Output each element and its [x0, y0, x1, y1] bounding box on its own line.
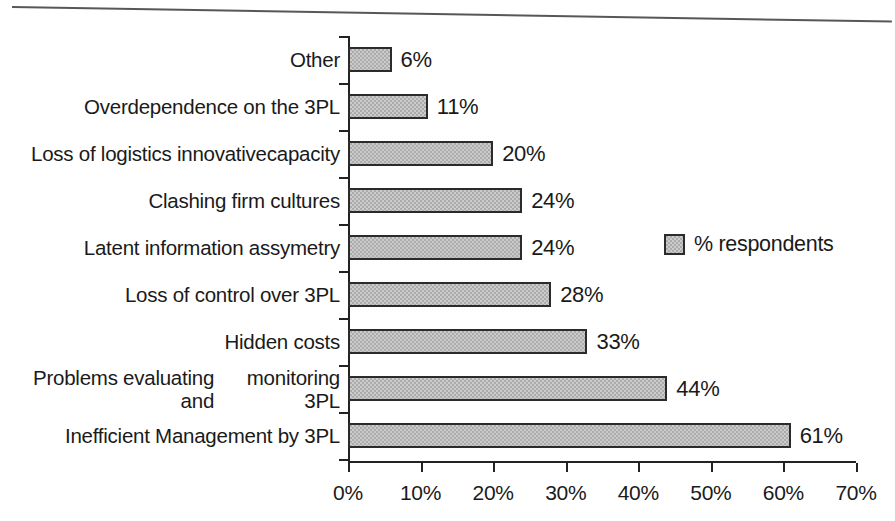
category-label-line: Loss of control over 3PL [125, 283, 340, 306]
category-label: Latent information assymetry [8, 224, 340, 271]
y-axis-tick [339, 271, 348, 273]
y-axis-tick [339, 83, 348, 85]
legend-label: % respondents [694, 232, 834, 257]
category-label-line: Other [290, 48, 340, 71]
bar [348, 94, 428, 119]
category-label-line: Problems evaluating and [8, 366, 214, 412]
category-label-line: Latent information assymetry [84, 236, 340, 259]
y-axis-tick [339, 177, 348, 179]
bar [348, 47, 392, 72]
chart-legend: % respondents [664, 232, 834, 257]
y-axis-tick [339, 365, 348, 367]
x-axis-tick [566, 463, 568, 472]
x-axis-tick-label: 60% [763, 481, 804, 505]
bar [348, 376, 667, 401]
bar-value-label: 61% [800, 423, 843, 448]
x-axis-tick-label: 0% [333, 481, 363, 505]
x-axis-tick-label: 10% [400, 481, 441, 505]
bar-row: 20% [348, 130, 856, 177]
x-axis-tick-label: 30% [545, 481, 586, 505]
y-axis-tick [339, 224, 348, 226]
x-axis-tick [421, 463, 423, 472]
x-axis-line [348, 461, 856, 463]
x-axis-tick [348, 463, 350, 472]
legend-swatch-icon [664, 234, 685, 255]
y-axis-tick [339, 412, 348, 414]
horizontal-bar-chart: OtherOverdependence on the 3PLLoss of lo… [0, 0, 895, 521]
bar [348, 235, 522, 260]
category-label-line: monitoring 3PL [214, 366, 340, 412]
y-axis-tick [339, 36, 348, 38]
x-axis-tick-label: 20% [473, 481, 514, 505]
category-label-line: Inefficient Management by 3PL [65, 424, 340, 447]
category-label-line: Overdependence on the 3PL [84, 95, 340, 118]
bar-row: 11% [348, 83, 856, 130]
x-axis-tick [711, 463, 713, 472]
bar [348, 329, 587, 354]
bar-value-label: 20% [502, 141, 545, 166]
bar-row: 6% [348, 36, 856, 83]
bar-value-label: 44% [676, 376, 719, 401]
category-label: Hidden costs [8, 318, 340, 365]
category-label: Loss of logistics innovativecapacity [8, 130, 340, 177]
y-axis-tick [339, 318, 348, 320]
category-label: Inefficient Management by 3PL [8, 412, 340, 459]
x-axis-tick [856, 463, 858, 472]
x-axis-tick-label: 40% [618, 481, 659, 505]
bar [348, 423, 791, 448]
bar-value-label: 33% [596, 329, 639, 354]
bar [348, 188, 522, 213]
category-label: Clashing firm cultures [8, 177, 340, 224]
bar-value-label: 6% [401, 47, 432, 72]
bar-value-label: 11% [437, 94, 479, 119]
category-label-line: Clashing firm cultures [148, 189, 340, 212]
bar-value-label: 24% [531, 235, 574, 260]
bar-value-label: 28% [560, 282, 603, 307]
x-axis-tick-label: 50% [690, 481, 731, 505]
x-axis-tick [783, 463, 785, 472]
category-label-line: Hidden costs [224, 330, 340, 353]
bar [348, 141, 493, 166]
bar-row: 24% [348, 177, 856, 224]
x-axis-tick-label: 70% [835, 481, 876, 505]
category-label: Problems evaluating andmonitoring 3PL [8, 365, 340, 412]
category-axis-labels: OtherOverdependence on the 3PLLoss of lo… [8, 36, 340, 463]
bar [348, 282, 551, 307]
category-label: Loss of control over 3PL [8, 271, 340, 318]
y-axis-tick [339, 130, 348, 132]
category-label: Overdependence on the 3PL [8, 83, 340, 130]
y-axis-tick [339, 459, 348, 461]
bar-row: 61% [348, 412, 856, 459]
bar-value-label: 24% [531, 188, 574, 213]
category-label: Other [8, 36, 340, 83]
x-axis-tick [638, 463, 640, 472]
bar-row: 28% [348, 271, 856, 318]
category-label-line: capacity [267, 142, 340, 165]
x-axis-tick [493, 463, 495, 472]
category-label-line: Loss of logistics innovative [31, 142, 267, 165]
bar-row: 33% [348, 318, 856, 365]
bar-row: 44% [348, 365, 856, 412]
